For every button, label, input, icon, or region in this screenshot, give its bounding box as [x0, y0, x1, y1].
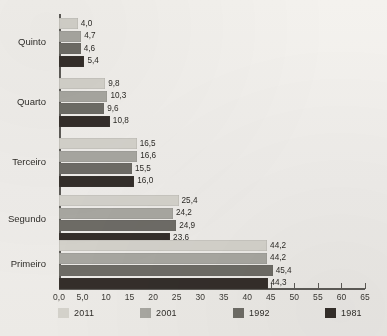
bar-2011-segundo [59, 195, 179, 206]
bar-group: Terceiro16,516,615,516,0 [59, 138, 379, 187]
bar-1981-quinto [59, 56, 84, 67]
x-tick-label: 50 [290, 292, 300, 302]
bar-1981-terceiro [59, 176, 134, 187]
x-tick-label: 65 [360, 292, 370, 302]
bar-2001-quinto [59, 31, 81, 42]
bar-group: Quinto4,04,74,65,4 [59, 18, 379, 67]
legend-item-1992[interactable]: 1992 [233, 308, 270, 318]
bar-row: 16,6 [59, 151, 379, 162]
bar-value-label: 24,9 [176, 221, 195, 231]
x-tick-label: 45 [266, 292, 276, 302]
x-tick-label: 35 [219, 292, 229, 302]
category-label: Quinto [18, 36, 46, 47]
bar-1981-primeiro [59, 278, 268, 289]
bar-2001-terceiro [59, 151, 137, 162]
bar-2011-terceiro [59, 138, 137, 149]
legend-item-2011[interactable]: 2011 [58, 308, 94, 318]
bar-row: 24,2 [59, 208, 379, 219]
bar-value-label: 4,6 [81, 44, 95, 54]
bar-1992-terceiro [59, 163, 132, 174]
x-tick-label: 60 [337, 292, 347, 302]
bar-row: 9,8 [59, 78, 379, 89]
legend-label: 1992 [249, 308, 270, 318]
bar-row: 16,0 [59, 176, 379, 187]
bar-1992-quarto [59, 103, 104, 114]
x-tick-label: 25 [172, 292, 182, 302]
bar-1992-quinto [59, 43, 81, 54]
x-tick-label: 30 [195, 292, 205, 302]
bar-value-label: 16,6 [137, 151, 156, 161]
plot-area: 0,05,0101520253035404550556065 Quinto4,0… [0, 0, 387, 290]
bar-value-label: 45,4 [273, 266, 292, 276]
category-label: Terceiro [12, 156, 46, 167]
bar-value-label: 10,8 [110, 116, 129, 126]
bar-row: 10,8 [59, 116, 379, 127]
bar-row: 5,4 [59, 56, 379, 67]
category-label: Quarto [17, 96, 46, 107]
bar-value-label: 44,2 [267, 253, 286, 263]
bar-2011-quarto [59, 78, 105, 89]
legend-label: 1981 [341, 308, 362, 318]
bar-group: Primeiro44,244,245,444,3 [59, 240, 379, 289]
bar-2011-quinto [59, 18, 78, 29]
bar-value-label: 25,4 [179, 196, 198, 206]
bar-2011-primeiro [59, 240, 267, 251]
bar-value-label: 9,6 [104, 104, 118, 114]
legend-swatch-icon [58, 308, 69, 318]
bar-row: 44,2 [59, 240, 379, 251]
bar-group: Segundo25,424,224,923,6 [59, 195, 379, 244]
bar-row: 4,0 [59, 18, 379, 29]
legend-label: 2011 [74, 308, 94, 318]
bar-2001-quarto [59, 91, 107, 102]
bar-row: 25,4 [59, 195, 379, 206]
x-tick-label: 55 [313, 292, 323, 302]
category-label: Primeiro [11, 258, 46, 269]
x-tick-label: 40 [242, 292, 252, 302]
x-tick-label: 15 [125, 292, 135, 302]
category-label: Segundo [8, 213, 46, 224]
legend-item-2001[interactable]: 2001 [140, 308, 177, 318]
bar-row: 44,3 [59, 278, 379, 289]
bar-2001-primeiro [59, 253, 267, 264]
bar-value-label: 16,5 [137, 139, 156, 149]
bar-value-label: 15,5 [132, 164, 151, 174]
chart-legend: 2011200119921981 [0, 308, 387, 328]
bar-row: 4,6 [59, 43, 379, 54]
x-tick-label: 0,0 [53, 292, 65, 302]
bar-row: 4,7 [59, 31, 379, 42]
bar-row: 45,4 [59, 265, 379, 276]
bar-row: 10,3 [59, 91, 379, 102]
bar-value-label: 4,7 [81, 31, 95, 41]
bar-value-label: 44,3 [268, 278, 287, 288]
legend-item-1981[interactable]: 1981 [325, 308, 362, 318]
legend-swatch-icon [325, 308, 336, 318]
bar-1981-quarto [59, 116, 110, 127]
bar-value-label: 5,4 [84, 56, 98, 66]
bar-group: Quarto9,810,39,610,8 [59, 78, 379, 127]
bar-chart: 0,05,0101520253035404550556065 Quinto4,0… [0, 0, 387, 336]
bar-value-label: 16,0 [134, 176, 153, 186]
bar-2001-segundo [59, 208, 173, 219]
bar-value-label: 9,8 [105, 79, 119, 89]
bar-value-label: 44,2 [267, 241, 286, 251]
bar-1992-primeiro [59, 265, 273, 276]
x-tick-label: 10 [101, 292, 111, 302]
legend-swatch-icon [233, 308, 244, 318]
bar-value-label: 4,0 [78, 19, 92, 29]
bar-row: 9,6 [59, 103, 379, 114]
bar-row: 24,9 [59, 220, 379, 231]
bar-row: 15,5 [59, 163, 379, 174]
x-tick-label: 20 [148, 292, 158, 302]
legend-label: 2001 [156, 308, 177, 318]
bar-row: 44,2 [59, 253, 379, 264]
bar-row: 16,5 [59, 138, 379, 149]
legend-swatch-icon [140, 308, 151, 318]
bar-value-label: 24,2 [173, 208, 192, 218]
bar-1992-segundo [59, 220, 176, 231]
bar-value-label: 10,3 [107, 91, 126, 101]
x-tick-label: 5,0 [76, 292, 88, 302]
